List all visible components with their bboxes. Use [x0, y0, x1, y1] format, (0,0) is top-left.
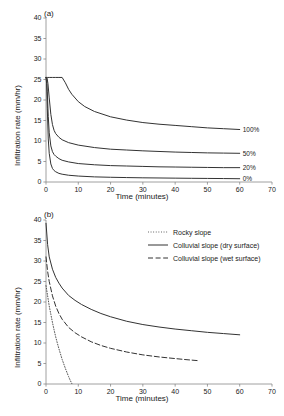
x-tick-label: 50: [204, 186, 212, 193]
chart-panel-b: (b) Infiltration rate (mm/hr) Time (minu…: [0, 206, 284, 414]
y-tick-label: 0: [38, 178, 42, 185]
y-tick-label: 30: [34, 257, 42, 264]
series-line-1: [46, 286, 72, 384]
y-tick-label: 35: [34, 35, 42, 42]
y-tick-label: 0: [38, 380, 42, 387]
y-tick-label: 10: [34, 137, 42, 144]
y-tick-label: 20: [34, 96, 42, 103]
x-tick-label: 10: [74, 388, 82, 395]
y-tick-label: 40: [34, 216, 42, 223]
series-end-label-3: 20%: [243, 164, 256, 171]
x-tick-label: 30: [139, 388, 147, 395]
y-tick-label: 10: [34, 339, 42, 346]
y-tick-label: 15: [34, 319, 42, 326]
y-tick-label: 25: [34, 76, 42, 83]
x-tick-label: 0: [44, 388, 48, 395]
series-end-label-2: 50%: [243, 150, 256, 157]
x-tick-label: 20: [107, 186, 115, 193]
legend-label-3: Colluvial slope (wet surface): [173, 255, 261, 263]
figure-infiltration-rate: (a) Infiltration rate (mm/hr) Time (minu…: [0, 0, 284, 416]
legend-label-1: Rocky slope: [173, 229, 211, 237]
series-line-2: [46, 223, 240, 335]
x-tick-label: 70: [268, 186, 276, 193]
y-tick-label: 5: [38, 360, 42, 367]
x-tick-label: 20: [107, 388, 115, 395]
series-line-3: [46, 257, 198, 361]
y-tick-label: 15: [34, 117, 42, 124]
series-line-1: [46, 77, 240, 129]
y-tick-label: 30: [34, 55, 42, 62]
x-tick-label: 10: [74, 186, 82, 193]
x-tick-label: 60: [236, 388, 244, 395]
x-tick-label: 30: [139, 186, 147, 193]
y-tick-label: 5: [38, 158, 42, 165]
y-tick-label: 35: [34, 237, 42, 244]
panel-a-plot: 0102030405060700510152025303540100%50%20…: [0, 0, 284, 208]
x-tick-label: 40: [171, 388, 179, 395]
x-tick-label: 60: [236, 186, 244, 193]
x-tick-label: 0: [44, 186, 48, 193]
y-tick-label: 40: [34, 14, 42, 21]
series-end-label-4: 0%: [243, 175, 253, 182]
y-tick-label: 20: [34, 298, 42, 305]
x-tick-label: 70: [268, 388, 276, 395]
legend-label-2: Colluvial slope (dry surface): [173, 242, 259, 250]
chart-panel-a: (a) Infiltration rate (mm/hr) Time (minu…: [0, 0, 284, 208]
x-tick-label: 40: [171, 186, 179, 193]
series-end-label-1: 100%: [243, 126, 260, 133]
panel-b-plot: 0102030405060700510152025303540Rocky slo…: [0, 206, 284, 414]
series-line-2: [46, 77, 240, 153]
x-tick-label: 50: [204, 388, 212, 395]
y-tick-label: 25: [34, 278, 42, 285]
